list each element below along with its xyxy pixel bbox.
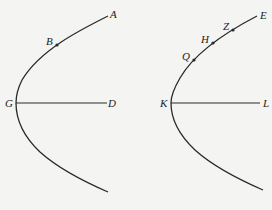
label-L: L [263, 98, 269, 109]
label-B: B [46, 36, 53, 47]
label-Q: Q [182, 51, 190, 62]
label-K: K [160, 98, 167, 109]
point-B [55, 43, 58, 46]
point-Z [231, 28, 234, 31]
parabola-figures [0, 0, 272, 210]
point-H [211, 41, 214, 44]
point-Q [192, 58, 195, 61]
label-G: G [5, 98, 13, 109]
diagram-canvas: A B G D E Z H Q K L [0, 0, 272, 210]
label-D: D [108, 98, 116, 109]
label-E: E [260, 10, 267, 21]
label-H: H [201, 34, 209, 45]
left-parabola-curve [16, 16, 108, 192]
label-A: A [110, 9, 117, 20]
label-Z: Z [223, 21, 229, 32]
